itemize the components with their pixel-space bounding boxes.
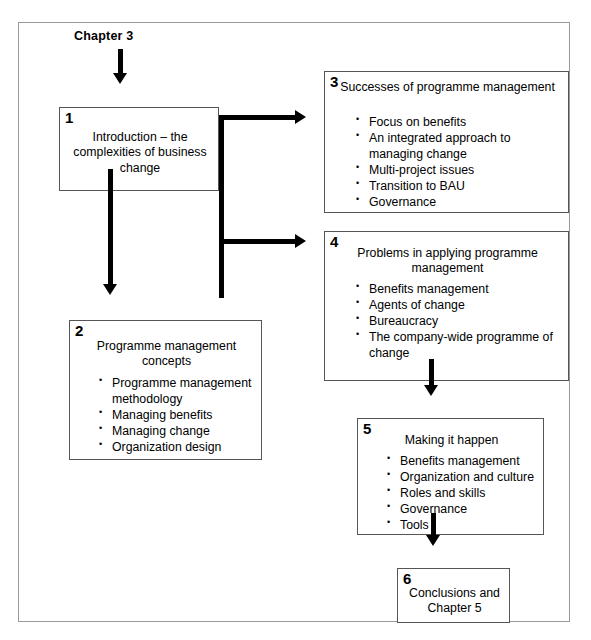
list-item: Focus on benefits <box>355 115 567 131</box>
list-item: Bureaucracy <box>355 314 567 330</box>
arrowhead-down-icon <box>424 385 438 396</box>
connector-line-to-node-3 <box>219 115 301 120</box>
node-5-title: Making it happen <box>358 433 545 448</box>
list-item: Managing benefits <box>98 408 258 424</box>
node-6-conclusions[interactable]: 6 Conclusions and Chapter 5 <box>397 568 510 623</box>
arrowhead-down-icon <box>113 73 127 84</box>
node-1-number: 1 <box>65 110 73 126</box>
node-2-bullets: Programme management methodology Managin… <box>98 376 258 456</box>
node-2-title: Programme management concepts <box>70 339 263 370</box>
list-item: Roles and skills <box>386 486 544 502</box>
arrowhead-down-icon <box>103 284 117 295</box>
list-item: Managing change <box>98 424 258 440</box>
list-item: Tools <box>386 518 544 534</box>
list-item: Governance <box>386 502 544 518</box>
connector-line-to-node-4 <box>219 239 301 244</box>
node-1-introduction[interactable]: 1 Introduction – the complexities of bus… <box>59 107 219 191</box>
connector-line <box>431 513 436 535</box>
node-4-bullets: Benefits management Agents of change Bur… <box>355 282 567 362</box>
arrowhead-right-icon <box>295 110 306 124</box>
connector-line <box>429 359 434 385</box>
diagram-page: Chapter 3 1 Introduction – the complexit… <box>0 0 591 640</box>
node-3-successes-of-programme-management[interactable]: 3 Successes of programme management Focu… <box>324 71 569 213</box>
list-item: Programme management methodology <box>98 376 258 408</box>
node-1-title: Introduction – the complexities of busin… <box>60 130 220 176</box>
connector-trunk-line <box>219 115 224 298</box>
node-5-making-it-happen[interactable]: 5 Making it happen Benefits management O… <box>357 418 544 535</box>
list-item: Governance <box>355 195 567 211</box>
list-item: Benefits management <box>386 454 544 470</box>
list-item: The company-wide programme of change <box>355 330 567 362</box>
node-6-number: 6 <box>403 571 411 587</box>
list-item: Multi-project issues <box>355 163 567 179</box>
list-item: Agents of change <box>355 298 567 314</box>
connector-line <box>118 49 123 73</box>
node-3-bullets: Focus on benefits An integrated approach… <box>355 115 567 211</box>
diagram-frame: Chapter 3 1 Introduction – the complexit… <box>18 22 570 622</box>
node-5-bullets: Benefits management Organization and cul… <box>386 454 544 534</box>
chapter-label: Chapter 3 <box>74 29 133 43</box>
node-3-title: Successes of programme management <box>325 80 570 95</box>
node-6-title: Conclusions and Chapter 5 <box>398 586 511 617</box>
node-2-programme-management-concepts[interactable]: 2 Programme management concepts Programm… <box>69 320 262 460</box>
list-item: Benefits management <box>355 282 567 298</box>
list-item: An integrated approach to managing chang… <box>355 131 567 163</box>
arrowhead-right-icon <box>295 234 306 248</box>
node-4-title: Problems in applying programme managemen… <box>325 246 570 277</box>
list-item: Organization and culture <box>386 470 544 486</box>
arrowhead-down-icon <box>426 535 440 546</box>
node-2-number: 2 <box>75 323 83 339</box>
connector-line <box>108 169 113 284</box>
list-item: Organization design <box>98 440 258 456</box>
list-item: Transition to BAU <box>355 179 567 195</box>
node-4-problems-in-applying-programme-management[interactable]: 4 Problems in applying programme managem… <box>324 231 569 381</box>
